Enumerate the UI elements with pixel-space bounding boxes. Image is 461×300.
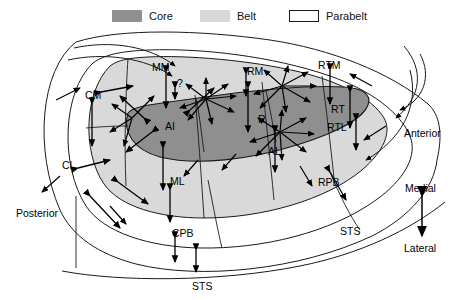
label-rpb: RPB: [318, 177, 340, 188]
label-rtl: RTL: [327, 122, 347, 133]
label-rtm: RTM: [318, 60, 341, 71]
label-mm: MM: [152, 62, 170, 73]
orientation-posterior: Posterior: [16, 208, 58, 219]
label-al: AL: [268, 146, 281, 157]
orientation-anterior: Anterior: [404, 128, 441, 139]
orientation-medial: Medial: [405, 183, 436, 194]
label-ml: ML: [170, 176, 185, 187]
label-sts-right: STS: [340, 226, 360, 237]
label-sts-bottom: STS: [192, 281, 212, 292]
label-rm: RM: [247, 66, 263, 77]
label-cm: CM: [85, 90, 101, 101]
orientation-lateral: Lateral: [404, 243, 436, 254]
label-cpb: CPB: [172, 228, 194, 239]
label-unknown: ?: [177, 78, 183, 89]
figure-root: Core Belt Parabelt: [0, 0, 461, 300]
label-cl: CL: [62, 160, 75, 171]
label-ai: AI: [165, 121, 175, 132]
label-r: R: [258, 114, 266, 125]
cortex-diagram: [0, 0, 461, 300]
label-rt: RT: [331, 104, 345, 115]
